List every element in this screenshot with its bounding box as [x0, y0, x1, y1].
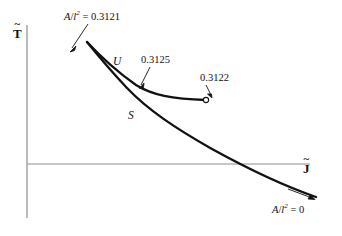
- top-param-equals: =: [80, 11, 91, 22]
- top-param-value: 0.3121: [91, 11, 120, 22]
- y-axis-tilde-accent: ~: [14, 18, 20, 29]
- bottom-parameter-annotation: A/l2 = 0: [272, 203, 304, 215]
- endpoint-value-label: 0.3122: [200, 73, 229, 84]
- curve-u-branch: [87, 42, 206, 100]
- figure-container: ~ T ~ J A/l2 = 0.3121 A/l2 = 0 U S 0.312…: [0, 0, 342, 236]
- upper-branch-value-label: 0.3125: [141, 55, 170, 66]
- leader-line-0p3122: [206, 85, 211, 95]
- x-axis-title-glyph: ~ J: [303, 162, 310, 175]
- top-parameter-annotation: A/l2 = 0.3121: [64, 10, 120, 22]
- curve-s-branch: [87, 42, 316, 197]
- endpoint-open-circle-marker: [203, 97, 208, 102]
- leader-line-0p3125: [141, 67, 150, 85]
- upper-branch-label: U: [113, 56, 121, 68]
- leader-line-top-param: [72, 24, 88, 48]
- leader-arrowhead-0p3122: [208, 94, 213, 98]
- x-axis-title: ~ J: [303, 162, 310, 175]
- plot-canvas: [0, 0, 342, 236]
- bottom-param-value: 0: [299, 204, 304, 215]
- y-axis-title-glyph: ~ T: [13, 27, 22, 40]
- x-axis-tilde-accent: ~: [303, 153, 309, 164]
- bottom-param-equals: =: [288, 204, 299, 215]
- y-axis-title: ~ T: [13, 27, 22, 40]
- lower-branch-label: S: [128, 110, 134, 122]
